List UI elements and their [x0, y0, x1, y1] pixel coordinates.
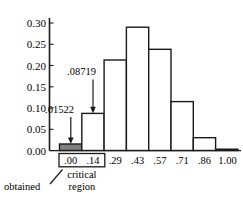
obtained-pointer-label: obtained [4, 181, 41, 192]
x-tick-label-86: .86 [198, 155, 211, 166]
x-axis-tick-labels: .00 .14 .29 .43 .57 .71 .86 1.00 [64, 155, 237, 166]
annotation-critical-arrow-head [90, 107, 96, 114]
y-axis-tick-labels: 0.30 0.25 0.20 0.15 0.10 0.05 0.00 [27, 17, 47, 157]
annotation-critical-value-label: .08719 [67, 66, 96, 77]
obtained-pointer: obtained [4, 170, 63, 192]
y-tick-label-015: 0.15 [27, 81, 47, 93]
y-tick-label-025: 0.25 [27, 38, 47, 50]
obtained-pointer-leader [50, 170, 63, 185]
x-tick-label-71: .71 [176, 155, 189, 166]
y-tick-label-010: 0.10 [27, 102, 47, 114]
bar-bin-00-obtained [60, 144, 82, 151]
x-tick-label-57: .57 [153, 155, 166, 166]
critical-region-caption-line2: region [68, 181, 96, 192]
critical-region-caption-line1: critical [67, 169, 96, 180]
y-tick-label-005: 0.05 [27, 123, 47, 135]
annotation-obtained-value-label: .01522 [45, 104, 74, 115]
x-tick-label-29: .29 [109, 155, 122, 166]
histogram-figure: 0.30 0.25 0.20 0.15 0.10 0.05 0.00 [0, 0, 243, 197]
y-tick-label-030: 0.30 [27, 17, 47, 29]
x-tick-label-14: .14 [86, 155, 100, 166]
bar-bin-29 [104, 60, 126, 151]
critical-region-caption: critical region [67, 169, 96, 192]
histogram-chart: 0.30 0.25 0.20 0.15 0.10 0.05 0.00 [0, 0, 243, 197]
x-tick-label-00: .00 [64, 155, 77, 166]
bar-bin-71 [171, 102, 193, 151]
x-tick-label-43: .43 [131, 155, 144, 166]
histogram-bars [60, 27, 238, 150]
bar-bin-57 [149, 49, 171, 150]
x-tick-label-100: 1.00 [218, 155, 236, 166]
bar-bin-86 [193, 138, 215, 151]
bar-bin-14 [82, 113, 104, 150]
bar-bin-43 [126, 27, 148, 150]
annotation-obtained-arrow-head [68, 138, 74, 145]
y-tick-label-000: 0.00 [27, 145, 47, 157]
y-tick-label-020: 0.20 [27, 60, 47, 72]
